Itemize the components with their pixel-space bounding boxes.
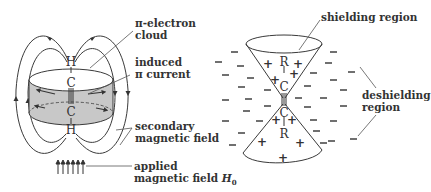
pi-cloud-label-line2: cloud xyxy=(135,30,196,42)
deshielding-region-label: deshielding region xyxy=(362,90,431,113)
atom-r-top: R xyxy=(279,55,289,69)
atom-c-top: C xyxy=(66,76,75,90)
pi-electron-cloud-label: π-electron cloud xyxy=(135,18,196,41)
atom-h-bottom: H xyxy=(66,123,76,137)
secondary-label-line1: secondary xyxy=(135,121,219,133)
induced-current-label: induced π current xyxy=(135,57,191,80)
applied-field-arrows xyxy=(56,160,85,174)
svg-text:+: + xyxy=(263,57,273,71)
svg-text:+: + xyxy=(287,113,297,127)
svg-text:+: + xyxy=(278,151,288,165)
applied-label-text: magnetic field xyxy=(134,172,222,184)
deshielding-label-line1: deshielding xyxy=(362,90,431,102)
pi-cloud-label-line1: π-electron xyxy=(135,18,196,30)
svg-text:+: + xyxy=(271,113,281,127)
applied-label-line2: magnetic field H0 xyxy=(134,173,237,189)
svg-text:+: + xyxy=(289,67,299,81)
deshielding-label-line2: region xyxy=(362,102,431,114)
atom-h-top: H xyxy=(66,55,76,69)
atom-c-top-right: C xyxy=(279,80,288,94)
svg-text:+: + xyxy=(257,135,267,149)
atom-r-bottom: R xyxy=(279,127,289,141)
atom-c-bottom: C xyxy=(66,105,75,119)
secondary-label-line2: magnetic field xyxy=(135,133,219,145)
svg-text:+: + xyxy=(270,73,280,87)
secondary-field-label: secondary magnetic field xyxy=(135,121,219,144)
induced-label-line1: induced xyxy=(135,57,191,69)
shielding-label-text: shielding region xyxy=(321,12,417,24)
svg-text:+: + xyxy=(295,136,305,150)
applied-symbol: H xyxy=(222,172,232,184)
applied-subscript: 0 xyxy=(232,178,237,187)
induced-label-line2: π current xyxy=(135,69,191,81)
applied-field-label: applied magnetic field H0 xyxy=(134,161,237,188)
shielding-region-label: shielding region xyxy=(321,12,417,24)
